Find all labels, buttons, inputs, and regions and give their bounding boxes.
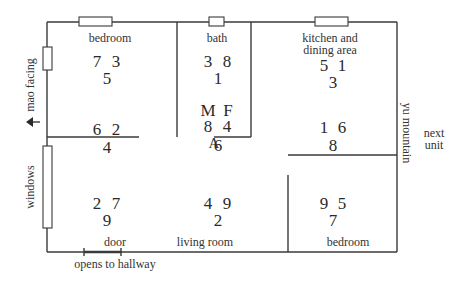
grid-num: 1 [320,118,329,137]
grid-num: 6 [338,118,347,137]
bath-window [209,17,224,26]
grid-southeast: 9 5 7 [320,194,347,230]
west-arrow-icon [26,117,40,127]
grid-num: 8 [329,136,338,155]
grid-num: 6 [93,120,102,139]
label-next-unit-line2: unit [425,138,444,152]
label-bath: bath [207,31,228,45]
living-room-windows [43,146,52,228]
label-kitchen-line2: dining area [303,43,357,57]
grid-kitchen: 5 1 3 [320,56,347,92]
grid-num: 9 [223,194,232,213]
grid-center: M F 8 4 6 [200,101,232,155]
label-yu-mountain: yu mountain [400,103,414,163]
grid-num: 5 [320,56,329,75]
grid-num: 5 [103,69,112,88]
label-living-room: living room [177,235,234,249]
label-bedroom-top: bedroom [89,31,132,45]
grid-east-middle: 1 6 8 [320,118,347,155]
grid-bedroom-top: 7 3 5 [93,52,121,88]
grid-num: 3 [112,52,121,71]
grid-num: 1 [214,69,223,88]
grid-num: 9 [103,211,112,230]
grid-num: 5 [338,194,347,213]
label-windows: windows [23,165,37,209]
grid-num: 8 [223,52,232,71]
grid-west-middle: 6 2 4 [93,120,121,157]
grid-num: 4 [223,117,232,136]
kitchen-window [315,17,348,26]
grid-num: 4 [103,138,112,157]
grid-num: 1 [338,56,347,75]
grid-num: 7 [112,194,121,213]
grid-num: 6 [214,136,223,155]
grid-num: 4 [204,194,213,213]
bedroom-window [79,17,112,26]
grid-south-center: 4 9 2 [204,194,232,230]
grid-num: 7 [329,211,338,230]
west-bedroom-window [43,47,52,70]
grid-num: 8 [204,117,213,136]
grid-bath: 3 8 1 [204,52,232,88]
grid-num: 3 [329,73,338,92]
floor-plan: bedroom bath kitchen and dining area doo… [0,0,469,302]
grid-num: 7 [93,52,102,71]
grid-num: 3 [204,52,213,71]
front-door [84,248,121,256]
grid-num: 2 [214,211,223,230]
grid-southwest: 2 7 9 [93,194,121,230]
label-bedroom-bottom: bedroom [327,235,370,249]
grid-num: 2 [93,194,102,213]
grid-num: 9 [320,194,329,213]
label-mao-facing: mao facing [23,58,37,112]
label-opens-to-hallway: opens to hallway [74,257,155,271]
grid-num: 2 [112,120,121,139]
label-door: door [104,235,126,249]
